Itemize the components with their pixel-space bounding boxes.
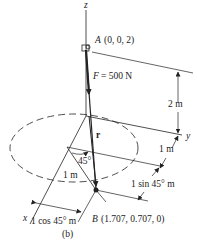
point-b-name: B	[92, 214, 98, 224]
y-axis-label: y	[185, 131, 191, 141]
sin-arrow-a	[152, 168, 159, 176]
y-axis	[86, 116, 182, 135]
z-axis-label: z	[83, 0, 88, 10]
point-b	[94, 188, 99, 193]
cos-dimension-arrow	[36, 203, 81, 212]
force-value: = 500 N	[101, 71, 132, 81]
sin-component-label: 1 sin 45° m	[131, 179, 175, 189]
point-a-pin	[86, 45, 90, 49]
point-a-name: A	[94, 35, 101, 45]
height-dim-label: 2 m	[168, 99, 183, 109]
point-b-coords: (1.707, 0.707, 0)	[101, 214, 164, 225]
x-axis	[30, 116, 86, 224]
radius-label: 1 m	[63, 170, 78, 180]
diagram-canvas: z x y A (0, 0, 2) F = 500 N 2 m r 45° 1 …	[0, 0, 197, 243]
y-offset-label: 1 m	[159, 144, 174, 154]
point-a-coords: (0, 0, 2)	[104, 35, 134, 46]
sin-arrow-b	[138, 192, 144, 200]
position-vector-label: r	[96, 130, 101, 140]
height-extension-line	[92, 52, 193, 73]
radius-line	[67, 147, 96, 190]
force-symbol: F	[92, 71, 99, 81]
angle-arc	[72, 152, 88, 154]
angle-label: 45°	[78, 156, 92, 166]
figure-caption: (b)	[62, 229, 73, 240]
one-m-arrow-b	[160, 158, 166, 168]
force-arrow	[86, 50, 89, 94]
x-axis-label: x	[22, 213, 28, 223]
cos-component-label: 1 cos 45° m	[31, 216, 77, 226]
